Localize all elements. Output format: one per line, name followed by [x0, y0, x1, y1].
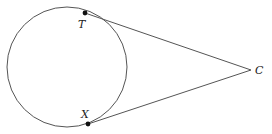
- label-c: C: [255, 64, 264, 77]
- tangent-segment-tc: [85, 13, 251, 70]
- point-t-dot: [83, 11, 88, 16]
- diagram-canvas: T X C: [0, 0, 272, 134]
- tangent-segment-xc: [88, 70, 251, 124]
- point-x-dot: [86, 122, 91, 127]
- label-t: T: [78, 18, 87, 31]
- circle: [7, 7, 127, 127]
- label-x: X: [80, 108, 90, 121]
